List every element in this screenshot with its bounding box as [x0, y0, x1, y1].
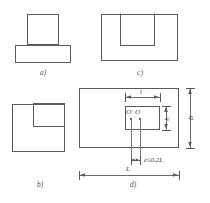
figure-c-caption: c) [130, 68, 150, 77]
figure-b-corner-square [33, 103, 65, 127]
dimension-tick-b-bottom [162, 130, 171, 131]
dimension-label-l-large: L [126, 165, 130, 173]
dimension-line-eccentricity [131, 160, 140, 161]
dimension-tick-b-large-top [186, 88, 195, 89]
dimension-tick-l-right [160, 93, 161, 102]
leader-line-o [140, 119, 141, 160]
figure-b-caption: b) [30, 180, 50, 189]
dimension-tick-b-top [162, 106, 171, 107]
figure-a-base-rectangle [15, 45, 71, 63]
figure-d-caption: d) [123, 180, 143, 189]
dimension-tick-e-left [131, 156, 132, 165]
dimension-label-l-small: l [140, 88, 142, 96]
dimension-line-l-large [79, 175, 179, 176]
leader-line-o-prime [131, 119, 132, 160]
dimension-tick-e-right [140, 156, 141, 165]
figure-c-inner-channel [120, 13, 155, 46]
dimension-label-b-large: B [187, 116, 195, 120]
label-o-prime: O' [126, 108, 133, 116]
eccentricity-note: e≤0.2L [144, 156, 163, 163]
figure-a-caption: a) [33, 68, 53, 77]
dimension-tick-l-large-right [179, 171, 180, 180]
dimension-tick-l-large-left [79, 171, 80, 180]
dimension-label-b-small: b [163, 117, 171, 121]
figure-a-upper-square [27, 14, 59, 45]
dimension-tick-l-left [125, 93, 126, 102]
label-o: O [135, 108, 140, 116]
dimension-tick-b-large-bottom [186, 148, 195, 149]
dimension-line-l-small [125, 97, 160, 98]
